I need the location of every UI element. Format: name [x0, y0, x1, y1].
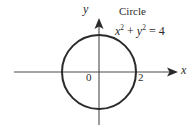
equation-equals-sign: =	[149, 24, 156, 38]
equation-plus-sign: +	[127, 24, 134, 38]
x-axis-label: x	[181, 64, 186, 76]
figure-title: Circle	[119, 6, 146, 17]
equation-y-exponent: 2	[142, 23, 146, 32]
circle-graph-figure	[0, 0, 193, 134]
y-axis-label: y	[83, 3, 88, 15]
x-intercept-label: 2	[138, 72, 144, 83]
origin-label: 0	[86, 72, 92, 83]
equation-x-exponent: 2	[120, 23, 124, 32]
circle-equation: x2 + y2 = 4	[115, 24, 165, 37]
equation-value: 4	[159, 24, 165, 38]
